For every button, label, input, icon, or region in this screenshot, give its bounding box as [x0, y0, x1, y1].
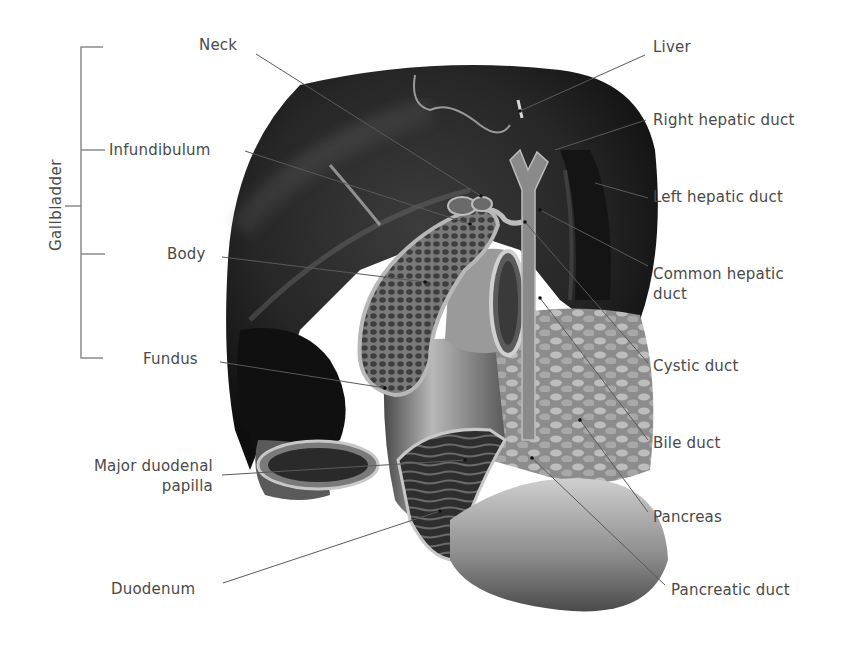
label-major-duodenal-papilla: Major duodenal papilla: [66, 456, 213, 496]
gallbladder-bracket: [65, 47, 105, 358]
label-bile-duct: Bile duct: [653, 433, 721, 453]
label-infundibulum: Infundibulum: [109, 140, 211, 160]
label-papilla-line2: papilla: [66, 476, 213, 496]
anatomy-figure: Gallbladder Neck Infundibulum Body Fundu…: [0, 0, 864, 659]
label-neck: Neck: [199, 35, 237, 55]
label-pancreas: Pancreas: [653, 507, 722, 527]
label-common-hepatic-duct: Common hepatic duct: [653, 264, 784, 304]
label-papilla-line1: Major duodenal: [66, 456, 213, 476]
label-cystic-duct: Cystic duct: [653, 356, 739, 376]
label-liver: Liver: [653, 37, 691, 57]
gallbladder-label: Gallbladder: [47, 161, 67, 251]
label-body: Body: [167, 244, 206, 264]
label-common-hepatic-line2: duct: [653, 284, 784, 304]
label-right-hepatic-duct: Right hepatic duct: [653, 110, 795, 130]
leader-duodenum: [223, 511, 440, 583]
label-duodenum: Duodenum: [111, 579, 195, 599]
label-left-hepatic-duct: Left hepatic duct: [653, 187, 783, 207]
label-fundus: Fundus: [143, 349, 198, 369]
anatomy-illustration: [0, 0, 864, 659]
label-pancreatic-duct: Pancreatic duct: [671, 580, 790, 600]
label-common-hepatic-line1: Common hepatic: [653, 264, 784, 284]
